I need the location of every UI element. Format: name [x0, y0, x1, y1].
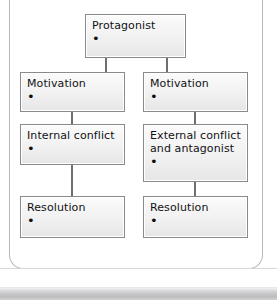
node-motivation-right-bullet [150, 92, 241, 103]
node-resolution-right-bullet [150, 216, 241, 227]
connector-motivation-left-to-internal-conflict [71, 112, 73, 124]
node-internal-conflict-label: Internal conflict [27, 129, 118, 142]
node-protagonist-bullet [92, 34, 179, 45]
node-external-conflict-label: External conflict and antagonist [150, 129, 241, 155]
node-resolution-right-label: Resolution [150, 201, 241, 214]
connector-internal-conflict-to-resolution-left [71, 165, 73, 196]
node-motivation-left[interactable]: Motivation [20, 72, 125, 112]
node-motivation-left-label: Motivation [27, 77, 118, 90]
node-protagonist[interactable]: Protagonist [85, 14, 186, 58]
bottom-strip [0, 288, 277, 300]
node-external-conflict[interactable]: External conflict and antagonist [143, 124, 248, 182]
connector-external-conflict-to-resolution-right [194, 182, 196, 196]
connector-protagonist-to-motivation-right [166, 58, 168, 72]
node-resolution-left-label: Resolution [27, 201, 118, 214]
node-protagonist-label: Protagonist [92, 19, 179, 32]
connector-protagonist-to-motivation-left [105, 58, 107, 72]
node-resolution-left-bullet [27, 216, 118, 227]
node-motivation-right[interactable]: Motivation [143, 72, 248, 112]
diagram-canvas: Protagonist Motivation Motivation Intern… [0, 0, 277, 300]
node-motivation-right-label: Motivation [150, 77, 241, 90]
node-internal-conflict[interactable]: Internal conflict [20, 124, 125, 165]
node-motivation-left-bullet [27, 92, 118, 103]
connector-motivation-right-to-external-conflict [194, 112, 196, 124]
node-resolution-left[interactable]: Resolution [20, 196, 125, 238]
node-resolution-right[interactable]: Resolution [143, 196, 248, 238]
frame-baseline-rule [0, 268, 277, 269]
node-external-conflict-bullet [150, 157, 241, 168]
node-internal-conflict-bullet [27, 144, 118, 155]
